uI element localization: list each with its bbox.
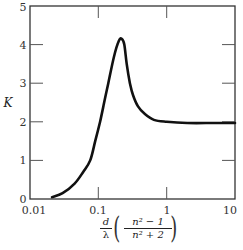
y-axis-label: K [3, 96, 14, 110]
x-tick-label: 10 [223, 204, 237, 217]
y-tick-label: 1 [20, 154, 27, 167]
denominator: λ [100, 229, 112, 241]
x-ticks [98, 6, 166, 199]
plot-frame [30, 6, 235, 199]
x-tick-label: 0.01 [22, 204, 47, 217]
x-axis-label: d λ ( n² − 1 n² + 2 ) [88, 212, 198, 250]
y-tick-label: 5 [20, 1, 27, 14]
paren-open: ( [113, 212, 120, 244]
y-ticks-left [30, 45, 43, 161]
y-tick-label: 3 [20, 77, 27, 90]
fraction-d-over-lambda: d λ [100, 216, 112, 241]
data-line [52, 38, 235, 197]
y-ticks-right [222, 45, 235, 161]
numerator: n² − 1 [124, 216, 172, 229]
numerator: d [100, 216, 112, 229]
y-tick-label: 4 [20, 39, 27, 52]
denominator: n² + 2 [124, 229, 172, 241]
paren-close: ) [170, 212, 177, 244]
fraction-refractive: n² − 1 n² + 2 [124, 216, 172, 241]
y-tick-label: 2 [20, 116, 27, 129]
